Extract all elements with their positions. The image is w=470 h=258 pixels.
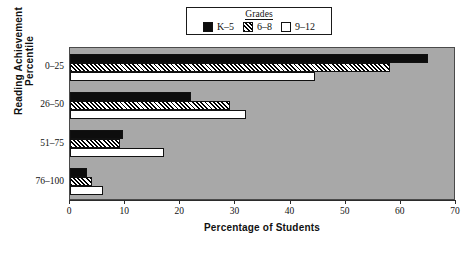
bar-chart: Grades K–5 6–8 9–12 010203040506070 Perc… [0,0,470,258]
legend-swatch-68-icon [243,22,253,32]
x-axis-tick-label: 60 [395,206,405,216]
bar-group [70,130,454,157]
x-axis-title: Percentage of Students [69,222,455,233]
x-axis-tick-label: 30 [230,206,240,216]
legend-label-k5: K–5 [217,21,234,32]
legend-entry-k5: K–5 [203,21,234,32]
x-axis-tick [400,200,401,204]
x-axis-tick [455,200,456,204]
x-axis-tick-label: 70 [450,206,460,216]
x-axis-tick [290,200,291,204]
bar [70,168,87,177]
bars-container [70,48,454,199]
bar [70,101,230,110]
bar [70,139,120,148]
x-axis-tick [124,200,125,204]
x-axis-tick [234,200,235,204]
x-axis-tick [69,200,70,204]
legend-title: Grades [187,9,331,19]
legend-label-68: 6–8 [257,21,272,32]
bar [70,177,92,186]
bar [70,148,164,157]
legend-label-912: 9–12 [295,21,315,32]
legend-items: K–5 6–8 9–12 [187,21,331,32]
bar [70,110,246,119]
plot-area [69,47,455,200]
bar [70,92,191,101]
bar-group [70,54,454,81]
x-axis-tick-label: 40 [285,206,295,216]
bar-group [70,92,454,119]
bar [70,130,123,139]
legend-entry-68: 6–8 [243,21,272,32]
y-axis-title: Reading Achievement Percentile [13,0,35,141]
legend-title-text: Grades [245,9,273,20]
x-axis-line [69,200,455,201]
bar [70,72,315,81]
legend-swatch-912-icon [281,22,291,32]
x-axis-tick-label: 20 [175,206,185,216]
x-axis-tick-label: 50 [340,206,350,216]
legend-entry-912: 9–12 [281,21,315,32]
x-axis-tick-label: 10 [119,206,129,216]
bar-group [70,168,454,195]
x-axis-tick [345,200,346,204]
bar [70,63,390,72]
x-axis-tick [179,200,180,204]
y-axis-tick-label: 76–100 [5,176,69,186]
chart-legend: Grades K–5 6–8 9–12 [186,7,332,35]
bar [70,186,103,195]
bar [70,54,428,63]
legend-swatch-k5-icon [203,22,213,32]
